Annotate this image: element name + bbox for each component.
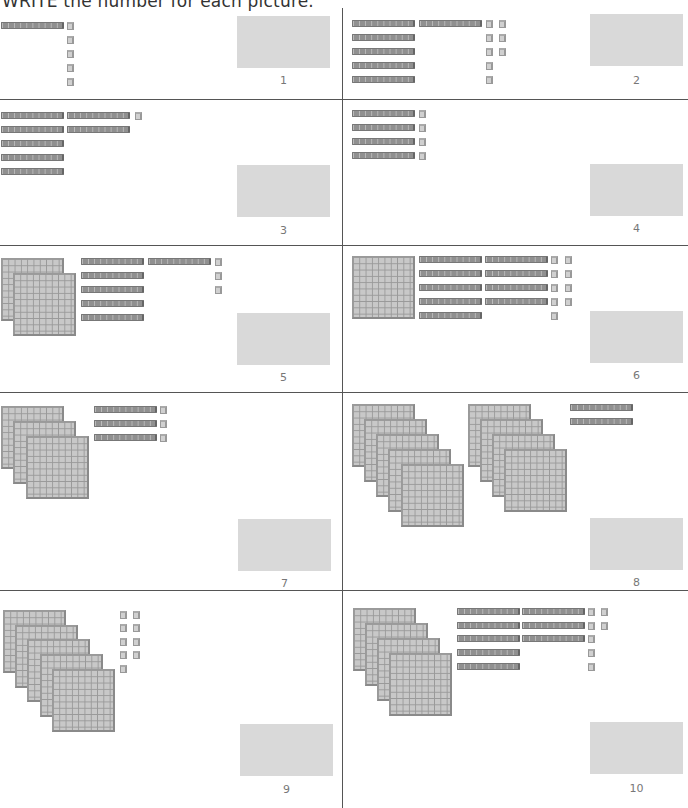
one-cube xyxy=(588,622,595,630)
problem-number: 2 xyxy=(590,74,683,87)
one-cube xyxy=(419,110,426,118)
answer-box[interactable] xyxy=(238,519,331,571)
hundred-flat xyxy=(352,256,415,319)
ten-rod xyxy=(457,635,520,642)
one-cube xyxy=(215,286,222,294)
answer-box[interactable] xyxy=(590,518,683,570)
one-cube xyxy=(551,256,558,264)
ten-rod xyxy=(1,154,64,161)
one-cube xyxy=(133,624,140,632)
ten-rod xyxy=(419,256,482,263)
one-cube xyxy=(551,284,558,292)
problem-number: 9 xyxy=(240,783,333,796)
one-cube xyxy=(588,635,595,643)
one-cube xyxy=(499,20,506,28)
one-cube xyxy=(565,270,572,278)
ten-rod xyxy=(570,404,633,411)
problem-5: 5 xyxy=(0,246,342,392)
ten-rod xyxy=(352,76,415,83)
ten-rod xyxy=(419,20,482,27)
ten-rod xyxy=(419,298,482,305)
one-cube xyxy=(160,434,167,442)
ten-rod xyxy=(352,34,415,41)
problem-3: 3 xyxy=(0,100,342,245)
ten-rod xyxy=(81,286,144,293)
one-cube xyxy=(67,64,74,72)
one-cube xyxy=(120,651,127,659)
ten-rod xyxy=(352,62,415,69)
one-cube xyxy=(499,34,506,42)
problem-number: 4 xyxy=(590,222,683,235)
problem-7: 7 xyxy=(0,393,342,590)
one-cube xyxy=(588,649,595,657)
ten-rod xyxy=(352,20,415,27)
one-cube xyxy=(120,611,127,619)
one-cube xyxy=(601,608,608,616)
ten-rod xyxy=(352,124,415,131)
one-cube xyxy=(160,420,167,428)
problem-number: 3 xyxy=(237,224,330,237)
one-cube xyxy=(419,124,426,132)
answer-box[interactable] xyxy=(240,724,333,776)
one-cube xyxy=(486,20,493,28)
one-cube xyxy=(67,50,74,58)
one-cube xyxy=(133,638,140,646)
one-cube xyxy=(419,138,426,146)
one-cube xyxy=(133,611,140,619)
problem-number: 5 xyxy=(237,371,330,384)
problem-number: 10 xyxy=(590,782,683,795)
problem-1: 1 xyxy=(0,10,342,99)
one-cube xyxy=(215,272,222,280)
one-cube xyxy=(67,36,74,44)
one-cube xyxy=(588,663,595,671)
one-cube xyxy=(486,34,493,42)
ten-rod xyxy=(67,112,130,119)
ten-rod xyxy=(352,48,415,55)
ten-rod xyxy=(1,168,64,175)
answer-box[interactable] xyxy=(237,165,330,217)
ten-rod xyxy=(94,434,157,441)
one-cube xyxy=(565,256,572,264)
problem-number: 7 xyxy=(238,577,331,590)
answer-box[interactable] xyxy=(237,16,330,68)
hundred-flat xyxy=(389,653,452,716)
ten-rod xyxy=(1,140,64,147)
one-cube xyxy=(120,638,127,646)
answer-box[interactable] xyxy=(590,14,683,66)
answer-box[interactable] xyxy=(237,313,330,365)
hundred-flat xyxy=(401,464,464,527)
one-cube xyxy=(419,152,426,160)
ten-rod xyxy=(522,635,585,642)
hundred-flat xyxy=(13,273,76,336)
ten-rod xyxy=(352,152,415,159)
ten-rod xyxy=(457,663,520,670)
problem-number: 6 xyxy=(590,369,683,382)
answer-box[interactable] xyxy=(590,722,683,774)
one-cube xyxy=(486,48,493,56)
ten-rod xyxy=(94,420,157,427)
one-cube xyxy=(486,76,493,84)
problem-number: 1 xyxy=(237,74,330,87)
one-cube xyxy=(499,48,506,56)
answer-box[interactable] xyxy=(590,164,683,216)
one-cube xyxy=(551,270,558,278)
ten-rod xyxy=(352,110,415,117)
one-cube xyxy=(120,624,127,632)
ten-rod xyxy=(1,112,64,119)
problem-6: 6 xyxy=(343,246,688,392)
problem-9: 9 xyxy=(0,591,342,808)
ten-rod xyxy=(148,258,211,265)
ten-rod xyxy=(81,314,144,321)
one-cube xyxy=(133,651,140,659)
ten-rod xyxy=(485,256,548,263)
ten-rod xyxy=(1,126,64,133)
ten-rod xyxy=(522,622,585,629)
ten-rod xyxy=(352,138,415,145)
one-cube xyxy=(551,312,558,320)
ten-rod xyxy=(419,284,482,291)
answer-box[interactable] xyxy=(590,311,683,363)
ten-rod xyxy=(522,608,585,615)
one-cube xyxy=(215,258,222,266)
problem-number: 8 xyxy=(590,576,683,589)
ten-rod xyxy=(457,608,520,615)
